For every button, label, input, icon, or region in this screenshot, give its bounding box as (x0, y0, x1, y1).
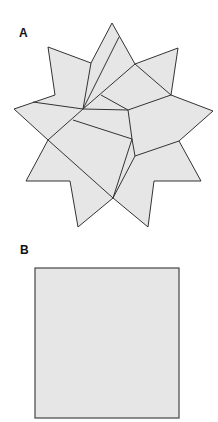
square-shape (35, 268, 179, 418)
star-dissection (14, 23, 213, 227)
diagram-canvas (0, 0, 218, 422)
